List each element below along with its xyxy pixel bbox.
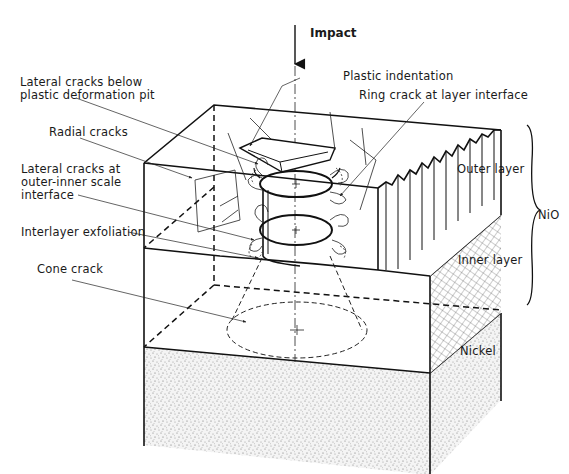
impact-label: Impact — [310, 26, 357, 40]
label-cone-crack: Cone crack — [37, 262, 103, 276]
label-lateral-cracks-at-3: interface — [21, 188, 74, 202]
label-nio: NiO — [538, 208, 559, 222]
label-ring-crack: Ring crack at layer interface — [359, 88, 528, 102]
label-lateral-cracks-below-2: plastic deformation pit — [20, 88, 155, 102]
label-lateral-cracks-at-1: Lateral cracks at — [21, 162, 121, 176]
label-interlayer-exfoliation: Interlayer exfoliation — [21, 225, 145, 239]
cone-crack — [227, 256, 367, 358]
leader-lines — [72, 78, 424, 322]
plastic-indentation — [240, 138, 335, 172]
label-outer-layer: Outer layer — [457, 162, 524, 176]
label-inner-layer: Inner layer — [458, 253, 523, 267]
label-plastic-indentation: Plastic indentation — [343, 69, 453, 83]
label-radial-cracks: Radial cracks — [49, 125, 128, 139]
label-lateral-cracks-below-1: Lateral cracks below — [20, 75, 142, 89]
label-lateral-cracks-at-2: outer-inner scale — [21, 175, 121, 189]
impact-damage-diagram: Impact — [0, 0, 569, 474]
label-nickel: Nickel — [460, 344, 496, 358]
